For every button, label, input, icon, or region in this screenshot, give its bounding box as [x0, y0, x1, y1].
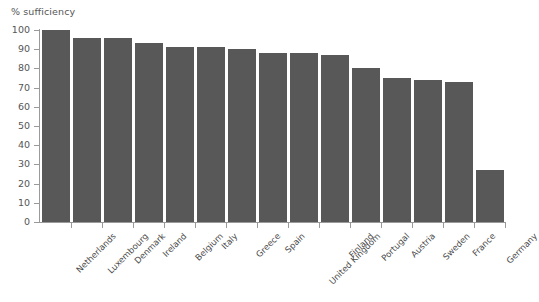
y-tick: 70 [34, 88, 39, 89]
x-axis-line [39, 222, 506, 223]
x-tick [288, 223, 289, 228]
y-tick-label: 20 [18, 178, 30, 189]
x-category-label: Belgium [193, 231, 225, 263]
bar [476, 170, 504, 222]
bar [228, 49, 256, 222]
bar [290, 53, 318, 222]
bar [104, 38, 132, 222]
bar [197, 47, 225, 222]
y-tick-label: 60 [18, 101, 30, 112]
x-category-label: Greece [254, 231, 282, 259]
x-tick [71, 223, 72, 228]
x-tick [381, 223, 382, 228]
x-tick [226, 223, 227, 228]
y-tick: 100 [34, 30, 39, 31]
x-category-label: Germany [505, 231, 539, 266]
x-tick [505, 223, 506, 228]
x-tick [164, 223, 165, 228]
x-category-label: Austria [409, 231, 437, 259]
plot-area [40, 30, 505, 222]
x-category-label: Italy [220, 231, 240, 251]
bar [352, 68, 380, 222]
x-tick [133, 223, 134, 228]
bar [42, 30, 70, 222]
y-tick: 20 [34, 184, 39, 185]
bar [166, 47, 194, 222]
y-tick-label: 70 [18, 82, 30, 93]
bar [383, 78, 411, 222]
x-tick [257, 223, 258, 228]
x-category-label: Portugal [380, 231, 412, 263]
bar [414, 80, 442, 222]
y-tick-label: 0 [24, 216, 30, 227]
bar [445, 82, 473, 222]
y-tick-label: 90 [18, 43, 30, 54]
y-tick: 30 [34, 164, 39, 165]
bar [321, 55, 349, 222]
y-tick-label: 30 [18, 158, 30, 169]
y-tick-label: 40 [18, 139, 30, 150]
x-tick [319, 223, 320, 228]
y-tick-label: 10 [18, 197, 30, 208]
y-tick-label: 50 [18, 120, 30, 131]
x-category-label: Sweden [441, 231, 472, 262]
y-axis-title: % sufficiency [11, 6, 75, 17]
x-tick [195, 223, 196, 228]
x-tick [350, 223, 351, 228]
y-tick-label: 100 [12, 24, 30, 35]
bar [73, 38, 101, 222]
y-tick: 90 [34, 49, 39, 50]
y-tick: 80 [34, 68, 39, 69]
x-tick [474, 223, 475, 228]
y-tick: 40 [34, 145, 39, 146]
x-tick [443, 223, 444, 228]
y-tick: 60 [34, 107, 39, 108]
y-tick: 0 [34, 222, 39, 223]
y-tick: 50 [34, 126, 39, 127]
bar [135, 43, 163, 222]
bar [259, 53, 287, 222]
y-tick-label: 80 [18, 62, 30, 73]
x-category-label: France [470, 231, 497, 258]
x-tick [412, 223, 413, 228]
x-tick [102, 223, 103, 228]
y-tick: 10 [34, 203, 39, 204]
x-category-label: Spain [283, 231, 307, 255]
